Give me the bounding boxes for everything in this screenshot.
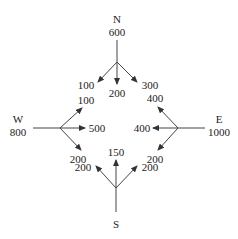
north-right-arrow [117,62,137,82]
node-north-label: N [113,13,121,25]
node-east: E 1000 400 400 200 [134,92,231,165]
south-right-flow: 200 [142,161,159,173]
south-straight-flow: 150 [108,146,125,158]
node-north-inflow: 600 [109,26,126,38]
north-left-arrow [98,62,117,82]
north-left-flow: 100 [78,79,95,91]
node-east-label: E [216,113,223,125]
north-straight-flow: 200 [109,87,126,99]
node-west-inflow: 800 [10,126,27,138]
north-right-flow: 300 [142,79,159,91]
node-west-label: W [13,113,24,125]
node-west: W 800 100 500 200 [10,94,106,165]
west-down-arrow [60,128,81,150]
south-left-arrow [96,166,116,188]
node-east-inflow: 1000 [208,126,231,138]
south-left-flow: 200 [75,161,92,173]
west-straight-flow: 500 [89,122,106,134]
east-down-arrow [158,128,178,150]
traffic-flow-diagram: N 600 100 200 300 W 800 100 500 200 E 10… [0,0,238,239]
east-up-flow: 400 [147,92,164,104]
node-north: N 600 100 200 300 [78,13,159,99]
node-south-label: S [113,218,119,230]
south-right-arrow [116,166,137,188]
west-up-arrow [60,108,82,128]
east-up-arrow [158,107,178,128]
east-straight-flow: 400 [134,122,151,134]
west-up-flow: 100 [78,94,95,106]
